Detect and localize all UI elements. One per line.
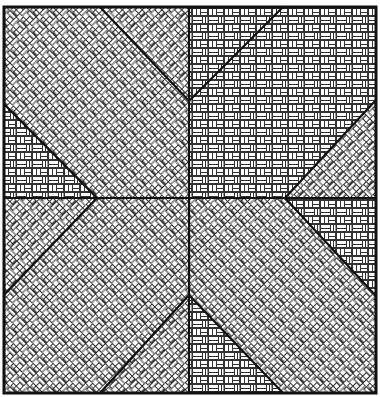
quilt-block-figure [0, 0, 380, 397]
